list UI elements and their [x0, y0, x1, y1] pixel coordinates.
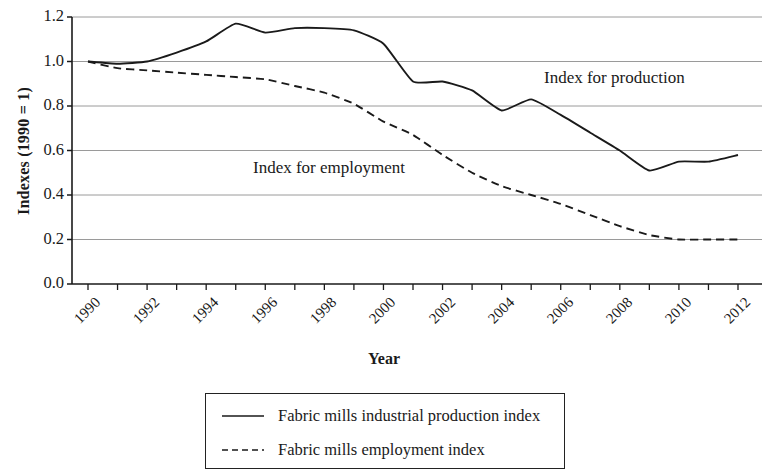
y-tick-label: 1.0 [18, 51, 64, 71]
chart-legend: Fabric mills industrial production index… [205, 393, 565, 469]
annotation-index-for-production: Index for production [544, 68, 685, 88]
legend-item-production[interactable]: Fabric mills industrial production index [220, 403, 540, 429]
legend-label-production: Fabric mills industrial production index [278, 406, 540, 426]
y-tick-label: 1.2 [18, 6, 64, 26]
y-tick-label: 0.8 [18, 95, 64, 115]
y-tick-label: 0.6 [18, 140, 64, 160]
x-axis-title: Year [0, 350, 768, 368]
legend-swatch-solid-line-icon [220, 409, 266, 423]
legend-item-employment[interactable]: Fabric mills employment index [220, 437, 485, 463]
legend-label-employment: Fabric mills employment index [278, 440, 485, 460]
y-tick-label: 0.4 [18, 184, 64, 204]
annotation-index-for-employment: Index for employment [253, 158, 405, 178]
y-tick-label: 0.2 [18, 229, 64, 249]
y-tick-label: 0.0 [18, 273, 64, 293]
legend-swatch-dashed-line-icon [220, 443, 266, 457]
series-line-production [88, 24, 738, 171]
